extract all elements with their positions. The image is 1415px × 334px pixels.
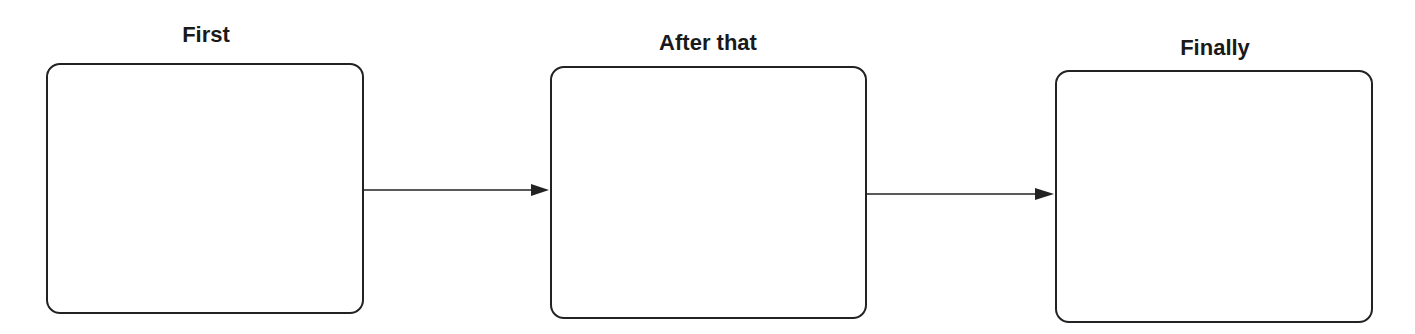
arrow-right-icon	[867, 188, 1054, 200]
arrow-right-icon	[364, 184, 549, 196]
connectors-layer	[0, 0, 1415, 334]
